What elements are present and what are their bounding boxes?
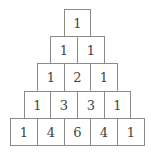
triangle-cell: 1: [50, 36, 78, 64]
triangle-cell: 1: [90, 63, 118, 92]
triangle-cell: 1: [104, 91, 131, 119]
triangle-cell: 1: [77, 36, 105, 64]
triangle-cell: 4: [90, 118, 118, 146]
triangle-cell: 6: [64, 118, 91, 146]
triangle-cell: 1: [24, 91, 51, 119]
triangle-cell: 1: [64, 9, 91, 37]
pascal-triangle: 111121133114641: [0, 0, 151, 160]
triangle-cell: 3: [50, 91, 78, 119]
triangle-cell: 2: [64, 63, 91, 92]
triangle-cell: 3: [77, 91, 105, 119]
triangle-cell: 1: [117, 118, 145, 146]
triangle-cell: 4: [37, 118, 65, 146]
triangle-cell: 1: [37, 63, 65, 92]
triangle-cell: 1: [10, 118, 38, 146]
